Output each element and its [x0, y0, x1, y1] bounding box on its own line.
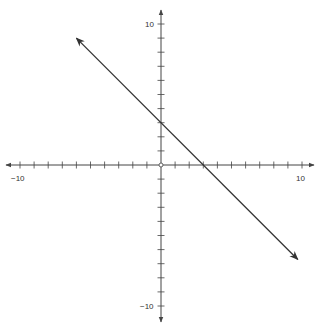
origin-marker	[159, 163, 163, 167]
x-min-label: −10	[11, 174, 25, 183]
x-max-label: 10	[296, 174, 305, 183]
y-min-label: −10	[140, 302, 154, 311]
y-max-label: 10	[145, 20, 154, 29]
plotted-line	[76, 38, 297, 259]
coordinate-plane: −10 10 10 −10	[0, 0, 318, 333]
